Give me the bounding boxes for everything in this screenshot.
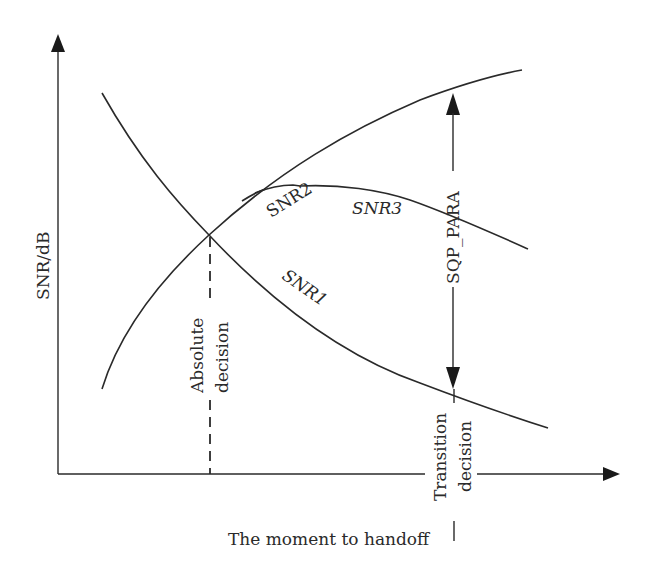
absolute-decision-line1: Absolute: [187, 318, 207, 394]
sqp-para-marker: SQP_PARA: [443, 93, 463, 389]
x-axis-label: The moment to handoff: [228, 529, 431, 549]
y-axis: [51, 34, 65, 474]
handoff-snr-diagram: SNR2 SNR3 SNR1 Absolute decision SQP_PAR…: [0, 0, 651, 568]
transition-decision-marker: Transition decision: [430, 389, 475, 541]
curve-snr2-tick: [242, 189, 266, 201]
x-axis: [58, 467, 620, 481]
absolute-decision-marker: Absolute decision: [187, 237, 232, 474]
sqp-arrow-up-icon: [446, 93, 460, 115]
sqp-arrow-down-icon: [446, 367, 460, 389]
transition-decision-line2: decision: [455, 421, 475, 492]
label-snr3: SNR3: [352, 198, 402, 218]
absolute-decision-line2: decision: [212, 322, 232, 393]
y-axis-arrow-icon: [51, 34, 65, 52]
transition-decision-line1: Transition: [430, 413, 450, 501]
curve-snr1: [102, 93, 548, 428]
y-axis-label: SNR/dB: [33, 232, 53, 300]
sqp-para-label: SQP_PARA: [443, 191, 463, 284]
x-axis-arrow-icon: [603, 467, 620, 481]
label-snr1: SNR1: [279, 265, 332, 310]
